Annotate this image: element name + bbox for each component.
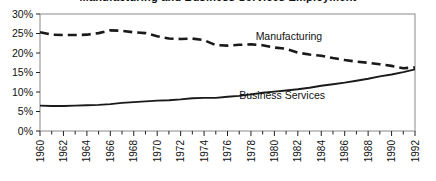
x-axis-label: 1970 [152, 140, 163, 163]
x-axis-label: 1978 [246, 140, 257, 163]
y-axis-label: 20% [12, 47, 33, 59]
employment-line-chart: Manufacturing and Business Services Empl… [0, 0, 436, 181]
y-axis-label: 0% [18, 125, 33, 137]
y-axis-label: 10% [12, 86, 33, 98]
x-axis-label: 1990 [386, 140, 397, 163]
x-axis-label: 1984 [316, 140, 327, 163]
series-label-business-services: Business Services [239, 89, 325, 101]
x-axis-label: 1962 [58, 140, 69, 163]
series-label-manufacturing: Manufacturing [256, 30, 323, 42]
x-axis-label: 1972 [175, 140, 186, 163]
x-axis-label: 1982 [292, 140, 303, 163]
x-axis-label: 1974 [199, 140, 210, 163]
chart-plot-area: 0%5%10%15%20%25%30%196019621964196619681… [0, 0, 436, 181]
x-axis-label: 1964 [81, 140, 92, 163]
y-axis-label: 25% [12, 27, 33, 39]
y-axis-label: 30% [12, 8, 33, 20]
x-axis-label: 1988 [363, 140, 374, 163]
y-axis-label: 15% [12, 66, 33, 78]
x-axis-label: 1960 [35, 140, 46, 163]
x-axis-label: 1968 [128, 140, 139, 163]
x-axis-label: 1980 [269, 140, 280, 163]
x-axis-label: 1966 [105, 140, 116, 163]
plot-frame [40, 14, 415, 131]
x-axis-label: 1976 [222, 140, 233, 163]
y-axis-label: 5% [18, 105, 33, 117]
x-axis-label: 1986 [339, 140, 350, 163]
x-axis-label: 1992 [410, 140, 421, 163]
